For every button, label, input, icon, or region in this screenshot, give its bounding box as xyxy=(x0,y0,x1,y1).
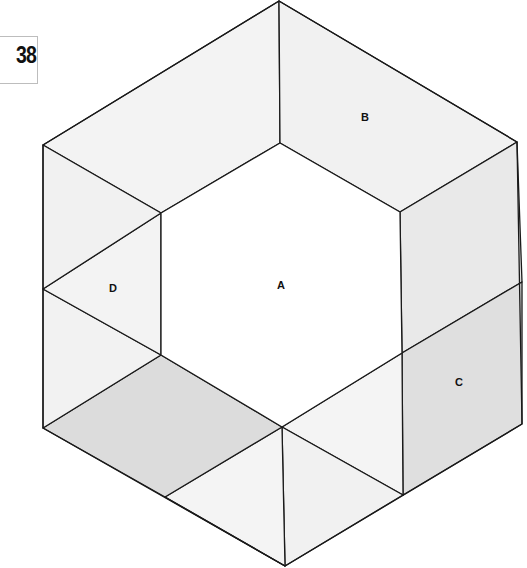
label-a: A xyxy=(277,279,285,291)
label-b: B xyxy=(361,111,369,123)
label-c: C xyxy=(455,376,463,388)
label-d: D xyxy=(109,282,117,294)
isometric-hexagon-diagram: B A C D xyxy=(0,0,527,568)
